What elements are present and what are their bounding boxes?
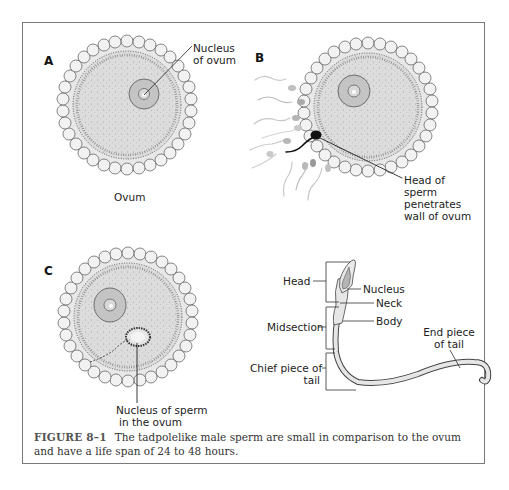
- figure-number: FIGURE 8–1: [34, 431, 107, 443]
- ovum-b: [298, 37, 438, 177]
- label-end-piece-of-tail: End piece of tail: [414, 326, 484, 350]
- panel-letter-c: C: [44, 264, 53, 278]
- label-ovum: Ovum: [114, 191, 145, 203]
- label-neck: Neck: [376, 297, 402, 309]
- label-chief-piece-of-tail: Chief piece of tail: [250, 362, 320, 386]
- label-head-of-sperm-penetrates: Head of sperm penetrates wall of ovum: [404, 174, 471, 222]
- label-body: Body: [376, 315, 403, 327]
- label-head: Head: [283, 275, 310, 287]
- label-midsection: Midsection: [267, 321, 323, 333]
- label-nucleus-of-sperm-in-ovum: Nucleus of sperm in the ovum: [116, 404, 208, 428]
- ovum-c: [58, 247, 198, 403]
- label-nucleus-of-ovum: Nucleus of ovum: [193, 42, 236, 66]
- label-nucleus: Nucleus: [363, 283, 405, 295]
- figure-caption: FIGURE 8–1The tadpolelike male sperm are…: [34, 430, 474, 458]
- ovum-a: [57, 35, 197, 175]
- panel-letter-b: B: [255, 51, 264, 65]
- figure-illustration: [0, 0, 509, 490]
- panel-letter-a: A: [44, 54, 53, 68]
